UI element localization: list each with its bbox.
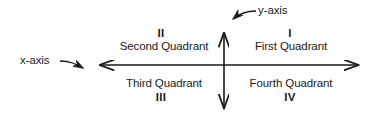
y-axis-leader-arrow: [233, 11, 256, 19]
quadrant-diagram: II Second Quadrant I First Quadrant Thir…: [0, 0, 381, 121]
axes-svg: [0, 0, 381, 121]
quadrant-i-numeral: I: [288, 28, 292, 40]
x-axis-label: x-axis: [20, 55, 49, 67]
quadrant-iii-numeral: III: [156, 92, 167, 104]
quadrant-i-label: First Quadrant: [255, 41, 327, 53]
quadrant-ii-label: Second Quadrant: [120, 41, 209, 53]
quadrant-iv-label: Fourth Quadrant: [250, 78, 333, 90]
y-axis-label: y-axis: [258, 5, 287, 17]
x-axis-leader-arrow: [60, 61, 83, 68]
quadrant-iii-label: Third Quadrant: [126, 78, 202, 90]
quadrant-iv-numeral: IV: [284, 92, 295, 104]
quadrant-ii-numeral: II: [158, 28, 165, 40]
